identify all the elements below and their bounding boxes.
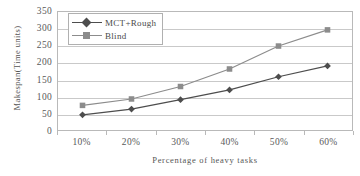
legend-label: MCT+Rough bbox=[102, 18, 156, 28]
y-tick-label: 300 bbox=[18, 23, 52, 33]
x-tick-mark bbox=[57, 131, 58, 135]
data-point-diamond-icon bbox=[226, 87, 233, 94]
x-axis-tick-marks bbox=[57, 131, 353, 136]
y-tick-label: 150 bbox=[18, 75, 52, 85]
x-tick-label: 60% bbox=[303, 137, 353, 147]
series-line bbox=[83, 66, 328, 115]
y-axis-tick-labels: 050100150200250300350 bbox=[18, 8, 52, 134]
x-tick-label: 30% bbox=[155, 137, 205, 147]
y-tick-label: 50 bbox=[18, 109, 52, 119]
x-tick-mark bbox=[205, 131, 206, 135]
data-point-square-icon bbox=[80, 103, 86, 109]
x-tick-label: 40% bbox=[205, 137, 255, 147]
series-mct-rough bbox=[79, 63, 331, 119]
data-point-diamond-icon bbox=[177, 96, 184, 103]
y-tick-label: 200 bbox=[18, 57, 52, 67]
data-point-square-icon bbox=[276, 43, 282, 49]
x-tick-mark bbox=[106, 131, 107, 135]
chart-legend: MCT+Rough Blind bbox=[68, 13, 163, 45]
y-tick-label: 100 bbox=[18, 92, 52, 102]
legend-label: Blind bbox=[102, 31, 127, 41]
x-tick-mark bbox=[156, 131, 157, 135]
x-tick-label: 10% bbox=[57, 137, 107, 147]
data-point-diamond-icon bbox=[324, 63, 331, 70]
data-point-diamond-icon bbox=[128, 106, 135, 113]
x-axis-title: Percentage of heavy tasks bbox=[57, 155, 353, 165]
x-tick-mark bbox=[353, 131, 354, 135]
legend-diamond-marker-icon bbox=[72, 17, 102, 28]
data-point-diamond-icon bbox=[79, 111, 86, 118]
x-tick-mark bbox=[304, 131, 305, 135]
y-tick-label: 350 bbox=[18, 6, 52, 16]
legend-item-blind: Blind bbox=[72, 29, 156, 42]
legend-square-marker-icon bbox=[72, 30, 102, 41]
data-point-diamond-icon bbox=[275, 73, 282, 80]
y-tick-label: 0 bbox=[18, 126, 52, 136]
data-point-square-icon bbox=[227, 66, 233, 72]
data-point-square-icon bbox=[178, 84, 184, 90]
y-tick-label: 250 bbox=[18, 40, 52, 50]
x-tick-label: 20% bbox=[106, 137, 156, 147]
x-tick-mark bbox=[254, 131, 255, 135]
x-tick-label: 50% bbox=[254, 137, 304, 147]
chart-figure: Makespan(Time units) 0501001502002503003… bbox=[0, 0, 360, 176]
data-point-square-icon bbox=[325, 27, 331, 33]
data-point-square-icon bbox=[129, 96, 135, 102]
legend-item-mct-rough: MCT+Rough bbox=[72, 16, 156, 29]
x-axis-tick-labels: 10%20%30%40%50%60% bbox=[57, 137, 353, 151]
